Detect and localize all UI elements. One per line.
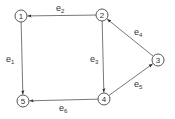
edge-line: [21, 22, 23, 95]
node-label: 1: [19, 12, 24, 21]
node-label: 2: [100, 11, 105, 20]
edge-line: [102, 21, 104, 93]
edge-label-e1: e1: [6, 54, 15, 65]
edge-label-e4: e4: [134, 27, 143, 38]
edge-e2: [27, 15, 96, 16]
edge-e1: [21, 22, 23, 95]
node-4: 4: [98, 93, 110, 105]
node-3: 3: [152, 54, 164, 66]
node-5: 5: [17, 95, 29, 107]
edge-label-e6: e6: [59, 103, 68, 114]
edge-e4: [107, 19, 153, 56]
edge-line: [107, 19, 153, 56]
edge-line: [29, 99, 98, 101]
node-1: 1: [15, 10, 27, 22]
node-2: 2: [96, 9, 108, 21]
graph-diagram: 12345 e1e2e3e4e5e6: [0, 0, 175, 119]
edge-label-e2: e2: [56, 3, 65, 14]
edge-label-e3: e3: [90, 54, 99, 65]
edge-e5: [109, 64, 153, 96]
edge-label-e5: e5: [134, 79, 143, 90]
node-label: 5: [21, 97, 26, 106]
edge-e3: [102, 21, 104, 93]
edge-line: [27, 15, 96, 16]
node-label: 3: [156, 56, 161, 65]
node-label: 4: [102, 95, 107, 104]
edge-e6: [29, 99, 98, 101]
edge-line: [109, 64, 153, 96]
